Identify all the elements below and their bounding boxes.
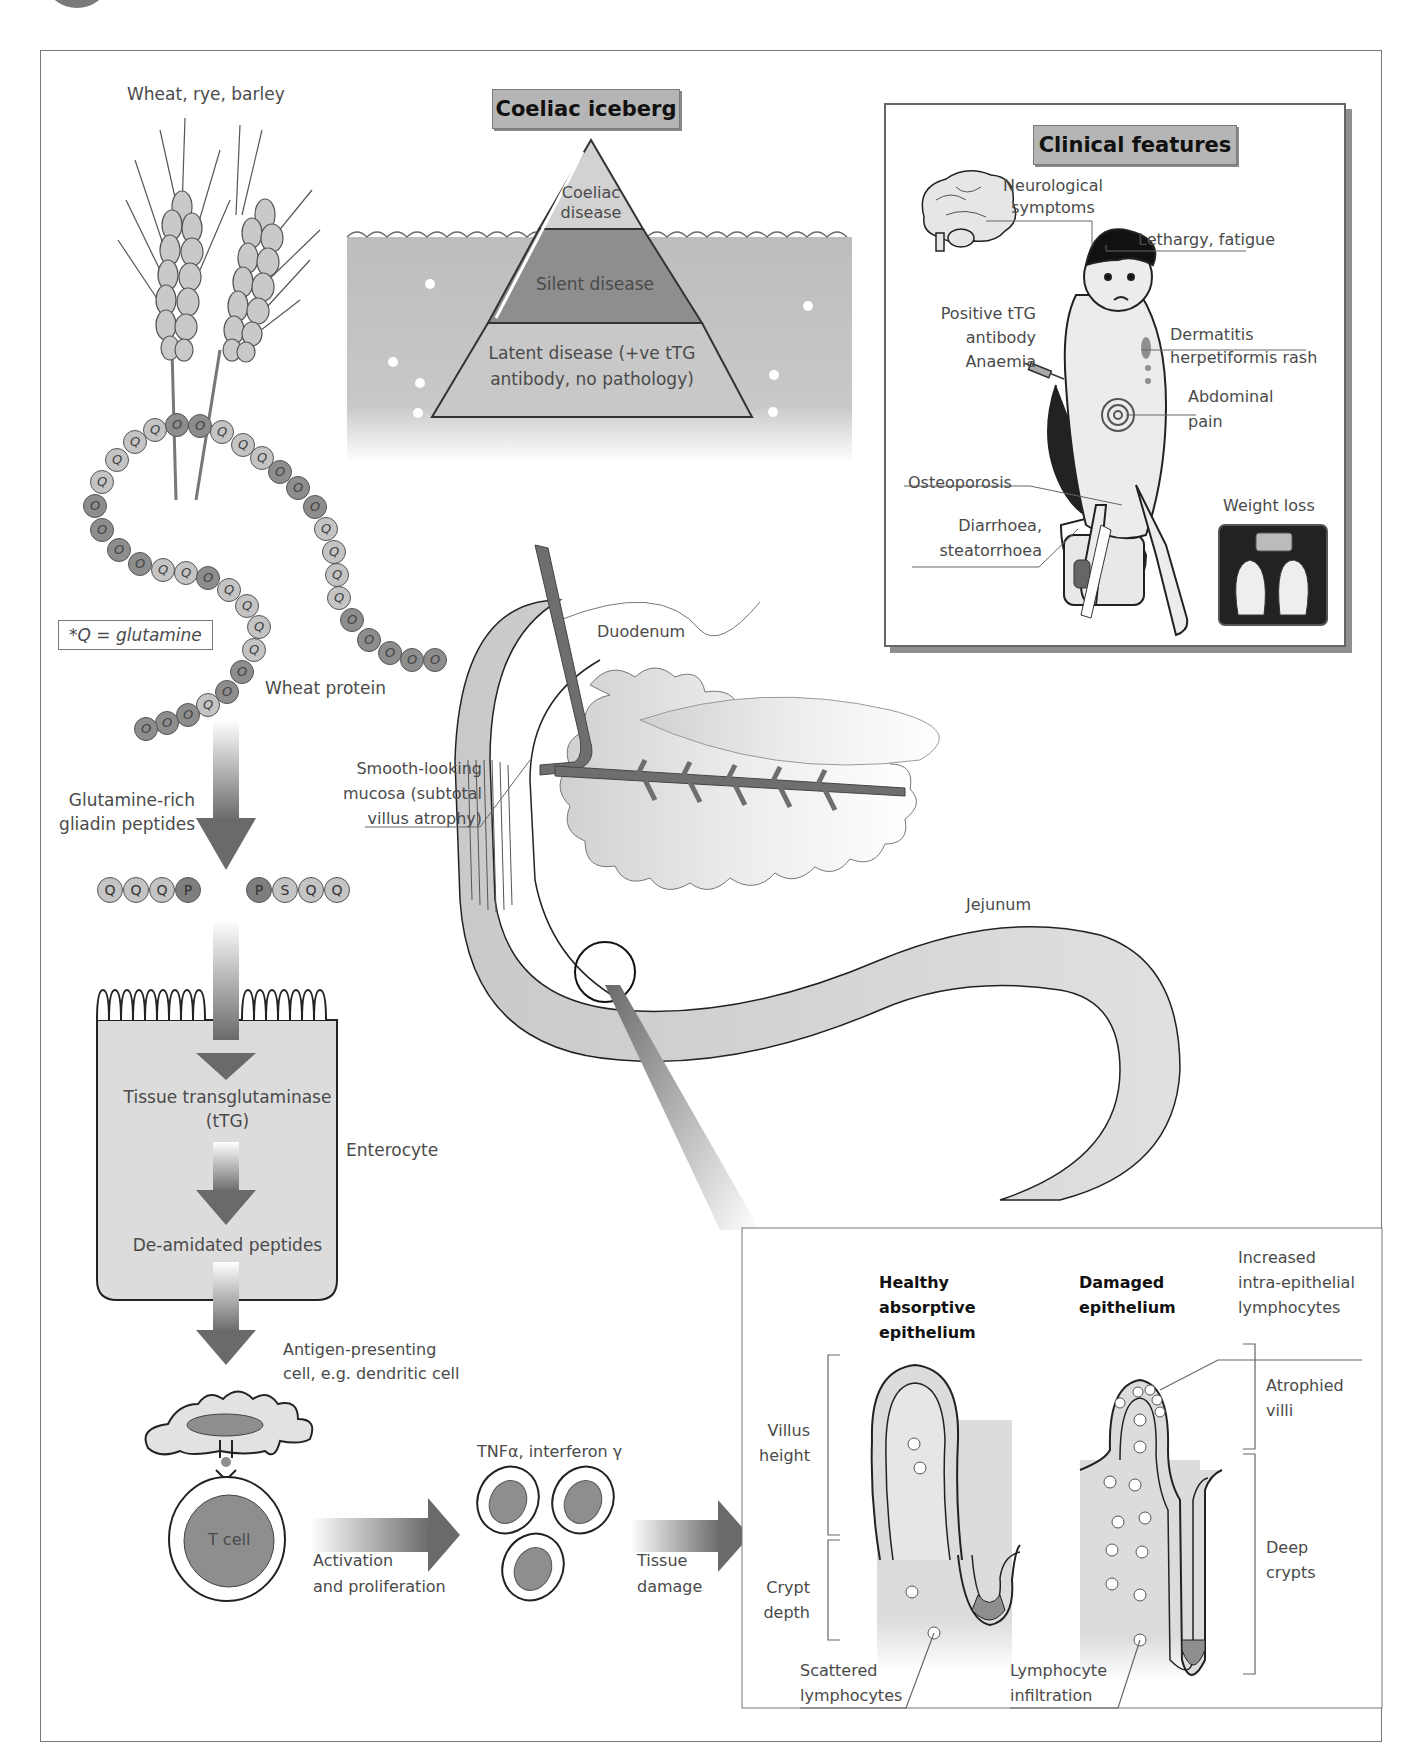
damaged-epithelium-title: Damaged epithelium: [1079, 1270, 1176, 1320]
amino-acid-bead: O: [230, 660, 254, 684]
glutamine-bead: Q: [314, 517, 338, 541]
scattered-lymphocytes-label: Scattered lymphocytes: [800, 1658, 902, 1708]
amino-acid-bead: O: [128, 552, 152, 576]
feature-lethargy: Lethargy, fatigue: [1138, 228, 1275, 252]
peptide-residue: S: [272, 877, 298, 903]
peptide-residue: Q: [149, 877, 175, 903]
duodenum-label: Duodenum: [597, 620, 685, 644]
amino-acid-bead: O: [83, 494, 107, 518]
iel-label: Increased intra-epithelial lymphocytes: [1238, 1245, 1355, 1320]
atrophied-villi-label: Atrophied villi: [1266, 1373, 1344, 1423]
peptide-residue: Q: [324, 877, 350, 903]
peptide-residue: Q: [123, 877, 149, 903]
amino-acid-bead: O: [188, 414, 212, 438]
amino-acid-bead: O: [107, 538, 131, 562]
mucosa-label: Smooth-looking mucosa (subtotal villus a…: [320, 756, 482, 831]
weighing-scale-icon: [1219, 525, 1327, 625]
glutamine-key: *Q = glutamine: [58, 620, 213, 650]
peptide-residue: Q: [298, 877, 324, 903]
grain-label: Wheat, rye, barley: [127, 82, 285, 106]
peptide-residue: Q: [97, 877, 123, 903]
feature-ttg-anaemia: Positive tTG antibody Anaemia: [916, 302, 1036, 374]
glutamine-bead: Q: [151, 558, 175, 582]
glutamine-bead: Q: [90, 470, 114, 494]
feature-dermatitis: Dermatitis herpetiformis rash: [1170, 323, 1317, 369]
feature-weight-loss: Weight loss: [1223, 494, 1315, 518]
deamidated-label: De-amidated peptides: [110, 1233, 345, 1257]
amino-acid-bead: O: [340, 608, 364, 632]
enterocyte-label: Enterocyte: [346, 1138, 438, 1162]
lymphocyte-infiltration-label: Lymphocyte infiltration: [1010, 1658, 1107, 1708]
amino-acid-bead: O: [90, 518, 114, 542]
feature-abdominal-pain: Abdominal pain: [1188, 384, 1273, 434]
glutamine-bead: Q: [325, 563, 349, 587]
amino-acid-bead: O: [378, 641, 402, 665]
wheat-protein-label: Wheat protein: [265, 676, 386, 700]
gliadin-label: Glutamine-rich gliadin peptides: [55, 788, 195, 836]
feature-osteoporosis: Osteoporosis: [908, 471, 1012, 495]
healthy-epithelium-title: Healthy absorptive epithelium: [879, 1270, 976, 1345]
iceberg-tier-middle: Silent disease: [500, 272, 690, 296]
clinical-features-panel: Clinical features: [884, 103, 1346, 647]
amino-acid-bead: O: [134, 717, 158, 741]
patient-figure-icon: [1048, 229, 1187, 635]
activated-lymphocytes-icon: [466, 1457, 624, 1611]
intestine-illustration: [455, 545, 1180, 1230]
enterocyte-cell: [97, 920, 337, 1365]
glutamine-bead: Q: [105, 448, 129, 472]
iceberg-tier-base: Latent disease (+ve tTG antibody, no pat…: [462, 340, 722, 392]
amino-acid-bead: O: [423, 648, 447, 672]
amino-acid-bead: O: [400, 648, 424, 672]
feature-diarrhoea: Diarrhoea, steatorrhoea: [910, 513, 1042, 563]
glutamine-bead: Q: [242, 638, 266, 662]
amino-acid-bead: O: [155, 711, 179, 735]
glutamine-bead: Q: [210, 420, 234, 444]
glutamine-bead: Q: [322, 540, 346, 564]
peptide-residue: P: [246, 877, 272, 903]
glutamine-bead: Q: [174, 561, 198, 585]
villus-height-label: Villus height: [750, 1418, 810, 1468]
apc-label: Antigen-presenting cell, e.g. dendritic …: [283, 1338, 459, 1386]
crypt-depth-label: Crypt depth: [750, 1575, 810, 1625]
amino-acid-bead: O: [165, 413, 189, 437]
arrow-down-icon: [196, 720, 256, 870]
iceberg-tier-tip: Coeliac disease: [546, 183, 636, 223]
amino-acid-bead: O: [303, 495, 327, 519]
amino-acid-bead: O: [286, 476, 310, 500]
tissue-damage-label: Tissue damage: [637, 1548, 702, 1600]
ttg-label: Tissue transglutaminase (tTG): [110, 1085, 345, 1133]
amino-acid-bead: O: [176, 703, 200, 727]
activation-label: Activation and proliferation: [313, 1548, 446, 1600]
amino-acid-bead: O: [357, 628, 381, 652]
peptide-residue: P: [175, 877, 201, 903]
t-cell-label: T cell: [208, 1528, 250, 1552]
glutamine-bead: Q: [327, 586, 351, 610]
jejunum-label: Jejunum: [966, 893, 1031, 917]
glutamine-bead: Q: [143, 418, 167, 442]
deep-crypts-label: Deep crypts: [1266, 1535, 1316, 1585]
cytokine-label: TNFα, interferon γ: [477, 1440, 622, 1464]
feature-neurological: Neurological symptoms: [988, 175, 1118, 219]
iceberg-title: Coeliac iceberg: [492, 89, 680, 129]
glutamine-bead: Q: [247, 615, 271, 639]
